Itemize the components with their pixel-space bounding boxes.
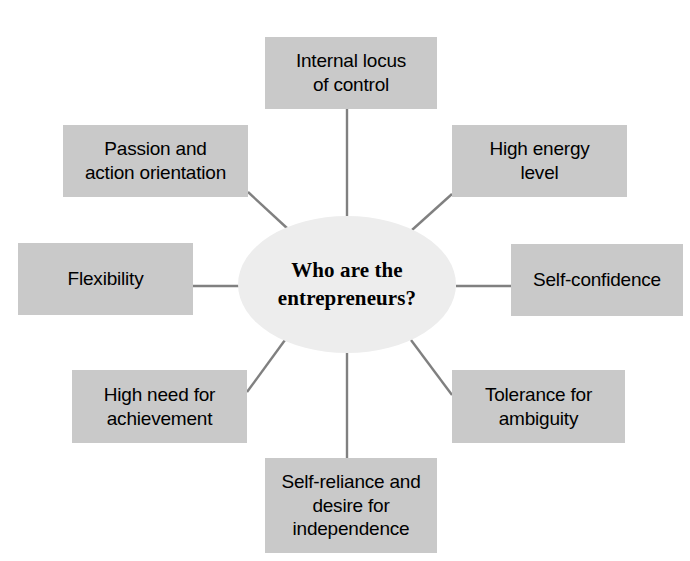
node-flexibility[interactable]: Flexibility: [18, 243, 193, 315]
node-internal-locus-of-control[interactable]: Internal locus of control: [265, 37, 437, 109]
node-label-high-need-for-achievement: High need for achievement: [104, 383, 215, 431]
node-label-self-reliance-and-desire-for-independence: Self-reliance and desire for independenc…: [281, 470, 420, 541]
connector-high-energy-level: [412, 194, 452, 230]
node-high-energy-level[interactable]: High energy level: [452, 125, 627, 197]
node-label-high-energy-level: High energy level: [489, 137, 589, 185]
node-passion-and-action-orientation[interactable]: Passion and action orientation: [63, 125, 248, 197]
node-self-reliance-and-desire-for-independence[interactable]: Self-reliance and desire for independenc…: [265, 458, 437, 553]
entrepreneur-traits-diagram: Internal locus of control High energy le…: [0, 0, 690, 561]
node-self-confidence[interactable]: Self-confidence: [511, 244, 683, 316]
center-node-who-are-the-entrepreneurs[interactable]: Who are the entrepreneurs?: [238, 216, 456, 353]
node-label-flexibility: Flexibility: [68, 267, 144, 291]
center-node-label: Who are the entrepreneurs?: [278, 257, 416, 312]
connector-high-need-for-achievement: [247, 340, 285, 392]
node-label-internal-locus-of-control: Internal locus of control: [296, 49, 406, 97]
node-label-self-confidence: Self-confidence: [533, 268, 661, 292]
node-high-need-for-achievement[interactable]: High need for achievement: [72, 370, 247, 443]
node-label-passion-and-action-orientation: Passion and action orientation: [85, 137, 226, 185]
node-label-tolerance-for-ambiguity: Tolerance for ambiguity: [485, 383, 592, 431]
node-tolerance-for-ambiguity[interactable]: Tolerance for ambiguity: [452, 370, 625, 443]
connector-tolerance-for-ambiguity: [411, 340, 452, 395]
connector-passion-and-action-orientation: [248, 192, 288, 229]
